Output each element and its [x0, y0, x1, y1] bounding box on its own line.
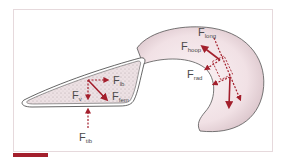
diagram-canvas: Flb Fv Ffem Ftib Flong Fhoop Frad [0, 0, 283, 161]
accent-bar [13, 153, 48, 157]
label-f-rad: Frad [187, 68, 202, 81]
label-f-tib: Ftib [79, 131, 93, 144]
force-hoop-arrow-lower [229, 77, 230, 106]
